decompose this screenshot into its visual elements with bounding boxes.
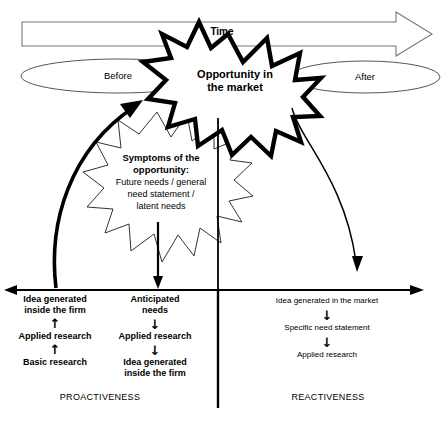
proactive-middle-arrow-down-2: ↓ <box>130 344 180 357</box>
proactive-middle-step3-line2: inside the firm <box>105 368 205 379</box>
symptoms-heading-line2: opportunity: <box>97 164 225 175</box>
proactive-middle-step1-line2: needs <box>105 305 205 316</box>
reactive-right-step1: Idea generated in the market <box>252 296 402 305</box>
reactiveness-label: REACTIVENESS <box>248 392 408 403</box>
proactive-left-step1-line2: inside the firm <box>5 305 105 316</box>
proactive-left-step3: Basic research <box>5 357 105 368</box>
proactiveness-label: PROACTIVENESS <box>15 392 185 403</box>
proactive-left-arrow-up-1: ↑ <box>30 317 80 330</box>
proactive-left-step1-line1: Idea generated <box>5 294 105 305</box>
opportunity-burst-line2: the market <box>179 81 291 94</box>
after-label: After <box>315 71 415 82</box>
baseline-right-arrowhead <box>410 285 424 295</box>
reactive-right-step3: Applied research <box>252 350 402 359</box>
opportunity-burst-line1: Opportunity in <box>179 68 291 81</box>
symptoms-body-line1: Future needs / general <box>92 177 230 188</box>
diagram-canvas: Time Before After Opportunity in the mar… <box>0 0 444 428</box>
symptoms-body-line2: need statement / <box>92 189 230 200</box>
proactive-middle-arrow-down-1: ↓ <box>130 318 180 331</box>
symptoms-down-arrowhead <box>153 276 163 289</box>
reactive-right-step2: Specific need statement <box>252 323 402 332</box>
proactive-left-step2: Applied research <box>5 331 105 342</box>
proactive-middle-step1-line1: Anticipated <box>105 294 205 305</box>
symptoms-heading-line1: Symptoms of the <box>97 152 225 163</box>
proactive-left-arrow-up-2: ↑ <box>30 343 80 356</box>
proactive-middle-step3-line1: Idea generated <box>105 357 205 368</box>
time-axis-label: Time <box>172 26 272 38</box>
reactive-right-arrow-down-2: ↓ <box>302 336 352 349</box>
reactive-curved-arrow <box>292 108 356 262</box>
before-label: Before <box>68 70 168 81</box>
symptoms-body-line3: latent needs <box>92 201 230 212</box>
reactive-right-arrow-down-1: ↓ <box>302 309 352 322</box>
proactive-middle-step2: Applied research <box>105 331 205 342</box>
reactive-curved-arrowhead <box>352 256 363 272</box>
